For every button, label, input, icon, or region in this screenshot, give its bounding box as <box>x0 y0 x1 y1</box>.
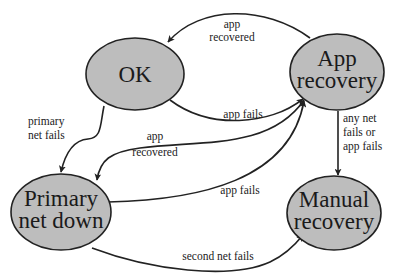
node-ok: OK <box>86 38 184 110</box>
edge-app-recovery-to-primary-net-down: app recovered <box>97 100 304 180</box>
edge-label-line: app <box>147 130 164 143</box>
node-app-recovery: App recovery <box>290 34 384 110</box>
edge-label-line: app fails <box>223 108 263 121</box>
node-primary-net-down: Primary net down <box>11 174 111 250</box>
edge-label-line: recovered <box>209 31 255 43</box>
edge-primary-net-down-to-manual-recovery: second net fails <box>92 235 303 271</box>
edge-label-line: recovered <box>132 146 178 158</box>
node-manual-recovery: Manual recovery <box>287 176 381 250</box>
edge-app-recovered-to-ok: app recovered <box>168 14 310 43</box>
edge-label-line: fails or <box>343 126 375 138</box>
edge-arrow <box>61 106 104 172</box>
edge-label-line: primary <box>28 115 65 128</box>
edge-label-line: any net <box>343 112 377 125</box>
edge-arrow <box>97 100 304 180</box>
state-diagram: app recovered app fails primary net fail… <box>0 0 400 277</box>
edge-ok-to-primary-net-down: primary net fails <box>28 106 104 172</box>
edge-app-recovery-to-manual-recovery: any net fails or app fails <box>338 111 383 175</box>
edge-label-line: net fails <box>28 129 65 141</box>
node-label-line: recovery <box>294 209 375 234</box>
edge-ok-to-app-recovery-app-fails: app fails <box>170 99 303 121</box>
node-label: OK <box>118 62 152 87</box>
node-label-line: recovery <box>297 68 378 93</box>
node-label-line: net down <box>19 208 104 233</box>
edge-label-line: app <box>224 18 241 31</box>
edge-label-line: second net fails <box>182 250 254 262</box>
edge-label-line: app fails <box>220 184 260 197</box>
edge-label-line: app fails <box>343 140 383 153</box>
